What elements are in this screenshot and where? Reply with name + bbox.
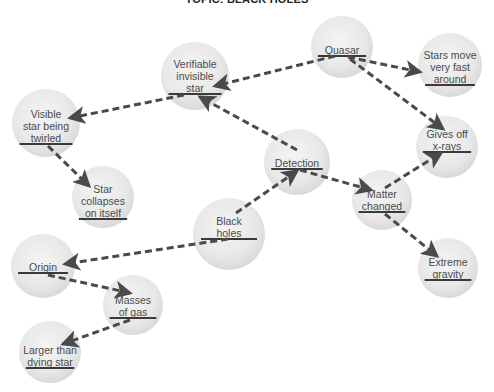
node-verifiable: Verifiableinvisiblestar [161,42,229,110]
node-black-holes: Blackholes [193,198,265,270]
node-label: collapses [81,195,125,207]
node-label: Visible [31,108,62,120]
node-label: holes [216,227,241,239]
node-label: star [186,82,204,94]
node-stars-move: Stars movevery fastaround [418,33,482,97]
node-larger-than: Larger thandying star [19,321,81,383]
nodes-layer: QuasarStars movevery fastaroundVerifiabl… [11,16,482,383]
node-label: twirled [31,132,62,144]
node-label: on itself [85,207,121,219]
node-matter-changed: Matterchanged [352,170,412,230]
node-label: Masses [115,294,151,306]
node-label: gravity [433,268,465,280]
node-label: Matter [367,188,397,200]
concept-map: QuasarStars movevery fastaroundVerifiabl… [0,0,494,392]
node-origin: Origin [11,234,75,298]
node-label: around [434,73,467,85]
node-masses-of-gas: Massesof gas [103,275,163,335]
node-label: Quasar [325,44,360,56]
node-label: x-rays [433,140,462,152]
node-visible-star: Visiblestar beingtwirled [12,89,80,157]
node-label: Gives off [426,128,467,140]
node-label: Verifiable [173,58,216,70]
node-label: Stars move [423,49,476,61]
node-label: of gas [119,306,148,318]
node-label: changed [362,200,402,212]
node-label: Black [216,215,242,227]
arrow-detection-to-verifiable [200,97,297,150]
node-label: Star [93,183,113,195]
node-label: dying star [27,356,73,368]
node-label: Detection [275,157,320,169]
node-label: star being [23,120,69,132]
node-label: Origin [29,261,57,273]
node-label: very fast [430,61,470,73]
node-label: Extreme [428,256,467,268]
node-label: invisible [176,70,214,82]
node-gives-off: Gives offx-rays [416,116,478,178]
node-label: Larger than [23,344,77,356]
arrow-verifiable-to-visible-star [70,95,184,118]
node-extreme-gravity: Extremegravity [418,238,478,298]
node-star-collapses: Starcollapseson itself [72,166,134,228]
